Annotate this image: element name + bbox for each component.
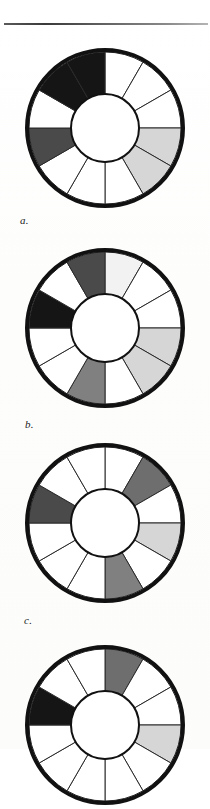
header-rule xyxy=(4,23,208,25)
figure-label-a: a. xyxy=(20,214,29,226)
color-wheel-c xyxy=(15,433,195,613)
wheel-svg xyxy=(15,635,195,809)
wheel-inner-hub xyxy=(71,489,139,557)
wheel-svg xyxy=(15,38,195,218)
wheel-svg xyxy=(15,433,195,613)
wheel-inner-hub xyxy=(71,294,139,362)
wheel-inner-hub xyxy=(71,691,139,759)
wheel-inner-hub xyxy=(71,94,139,162)
figure-label-b: b. xyxy=(25,418,34,430)
color-wheel-a xyxy=(15,38,195,218)
color-wheel-b xyxy=(15,238,195,418)
wheel-svg xyxy=(15,238,195,418)
color-wheel-d xyxy=(15,635,195,809)
figure-label-c: c. xyxy=(24,614,32,626)
